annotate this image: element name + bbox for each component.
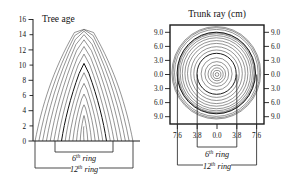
tree-age-ytick-10: 10 xyxy=(19,62,27,70)
trunk-ray-panel: Trunk ray (cm) xyxy=(154,9,280,171)
tree-age-ytick-6: 6 xyxy=(22,92,26,100)
trunk-ray-right-ytick-7: 9.0 xyxy=(271,113,280,121)
trunk-ray-left-ytick-3: 3.0 xyxy=(154,57,163,65)
trunk-ray-left-ytick-6: 6.0 xyxy=(154,99,163,107)
trunk-ray-right-ytick-5: 3.0 xyxy=(271,85,280,93)
trunk-ray-right-ticks xyxy=(264,32,269,116)
trunk-ray-left-ytick-4: 0.0 xyxy=(154,71,163,79)
tree-age-cone-profiles xyxy=(35,29,133,141)
tree-age-ytick-12: 12 xyxy=(19,47,27,55)
figure-container: Tree age 16 14 12 10 8 6 4 2 0 xyxy=(0,0,292,183)
trunk-ray-right-ytick-1: 9.0 xyxy=(271,29,280,37)
tree-age-title: Tree age xyxy=(42,14,75,24)
tree-age-ytick-16: 16 xyxy=(19,16,27,24)
tree-age-y-ticks xyxy=(29,20,34,142)
tree-age-ytick-4: 4 xyxy=(22,107,26,115)
trunk-ray-left-ytick-2: 6.0 xyxy=(154,43,163,51)
trunk-ray-frame xyxy=(170,25,264,124)
trunk-ray-left-ytick-1: 9.0 xyxy=(154,29,163,37)
trunk-ray-xtick-3: 0.0 xyxy=(213,132,222,140)
tree-age-panel: Tree age 16 14 12 10 8 6 4 2 0 xyxy=(19,14,140,174)
trunk-ray-label-12th-ring: 12th ring xyxy=(203,161,231,171)
trunk-ray-right-ytick-2: 6.0 xyxy=(271,43,280,51)
trunk-ray-right-ytick-3: 3.0 xyxy=(271,57,280,65)
tree-age-ytick-14: 14 xyxy=(19,31,27,39)
trunk-ray-left-ytick-5: 3.0 xyxy=(154,85,163,93)
trunk-ray-x-ticks xyxy=(177,124,256,129)
tree-age-label-6th-ring: 6th ring xyxy=(72,153,96,163)
tree-age-ytick-8: 8 xyxy=(22,77,26,85)
trunk-ray-left-ticks xyxy=(165,32,170,116)
trunk-ray-left-ytick-7: 9.0 xyxy=(154,113,163,121)
tree-age-bracket-6th xyxy=(55,141,113,152)
trunk-ray-rings xyxy=(172,27,261,119)
tree-age-label-12th-ring: 12th ring xyxy=(70,164,98,174)
tree-age-ytick-0: 0 xyxy=(22,138,26,146)
trunk-ray-right-ytick-4: 0.0 xyxy=(271,71,280,79)
trunk-ray-title: Trunk ray (cm) xyxy=(188,9,246,20)
trunk-ray-right-ytick-6: 6.0 xyxy=(271,99,280,107)
trunk-ray-label-6th-ring: 6th ring xyxy=(205,149,229,159)
tree-age-ytick-2: 2 xyxy=(22,123,26,131)
